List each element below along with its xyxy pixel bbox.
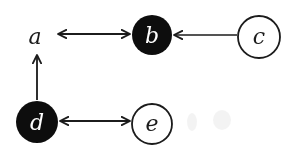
node-a: a	[28, 24, 41, 49]
node-e: e	[132, 104, 172, 144]
node-e-label: e	[145, 111, 158, 136]
node-b: b	[132, 15, 172, 55]
node-c-label: c	[253, 24, 265, 49]
node-c: c	[238, 16, 280, 58]
node-a-label: a	[28, 24, 41, 49]
graph-diagram: a b c d e	[0, 0, 299, 155]
node-b-label: b	[145, 23, 159, 48]
node-d: d	[16, 101, 58, 143]
node-d-label: d	[30, 110, 44, 135]
scan-smudge	[187, 110, 231, 131]
